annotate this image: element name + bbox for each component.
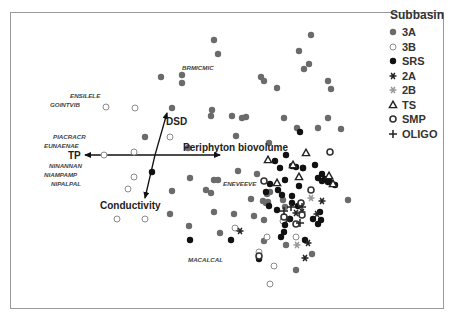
- point-3a: [260, 198, 266, 204]
- point-3a: [215, 177, 221, 183]
- marker: [389, 101, 396, 107]
- point-3a: [308, 32, 314, 38]
- point-3a: [233, 133, 239, 139]
- point-3a: [328, 86, 334, 92]
- point-3a: [158, 74, 164, 80]
- point-3b: [114, 216, 120, 222]
- species-label: NIAMPAMP: [44, 171, 78, 178]
- point-3a: [301, 66, 307, 72]
- point-smp: [298, 200, 304, 206]
- point-3a: [235, 168, 241, 174]
- legend-item-smp: SMP: [386, 112, 452, 127]
- species-label: MACALCAL: [188, 256, 223, 263]
- legend-marker-icon: [386, 26, 400, 38]
- point-3a: [208, 113, 214, 119]
- legend-label: SMP: [402, 113, 426, 125]
- point-3b: [142, 216, 148, 222]
- legend-marker-icon: [386, 113, 400, 125]
- legend-item-oligo: OLIGO: [386, 127, 452, 142]
- point-3a: [209, 107, 215, 113]
- legend-marker-icon: [386, 99, 400, 111]
- point-srs: [296, 183, 302, 189]
- legend-label: OLIGO: [402, 128, 437, 140]
- point-3a: [203, 187, 209, 193]
- legend-label: TS: [402, 99, 416, 111]
- point-3a: [187, 175, 193, 181]
- point-3a: [293, 267, 299, 273]
- point-3a: [169, 188, 175, 194]
- point-3a: [179, 80, 185, 86]
- point-srs: [315, 221, 321, 227]
- legend-title: Subbasin: [390, 8, 452, 22]
- point-3b: [101, 152, 107, 158]
- point-3a: [281, 115, 287, 121]
- point-3a: [211, 37, 217, 43]
- point-3a: [142, 134, 148, 140]
- point-srs: [266, 203, 272, 209]
- legend-marker-icon: [386, 84, 400, 96]
- marker: [390, 73, 397, 79]
- point-3b: [167, 134, 173, 140]
- legend-item-2b: 2B: [386, 83, 452, 98]
- point-smp: [327, 149, 333, 155]
- marker: [390, 44, 396, 50]
- point-srs: [319, 178, 325, 184]
- point-3a: [251, 213, 257, 219]
- point-3a: [169, 105, 175, 111]
- point-3a: [179, 72, 185, 78]
- point-3a: [186, 223, 192, 229]
- legend-label: 3B: [402, 41, 416, 53]
- legend-item-3a: 3A: [386, 25, 452, 40]
- species-label: NIPALPAL: [51, 180, 81, 187]
- point-srs: [187, 237, 193, 243]
- point-srs: [263, 189, 269, 195]
- point-3b: [264, 234, 270, 240]
- point-3b: [132, 105, 138, 111]
- point-3a: [231, 211, 237, 217]
- point-3a: [248, 196, 254, 202]
- point-3a: [261, 78, 267, 84]
- point-srs: [277, 165, 283, 171]
- point-3b: [293, 234, 299, 240]
- point-3a: [338, 126, 344, 132]
- marker: [390, 87, 397, 93]
- vector-label: DSD: [166, 116, 187, 127]
- species-label: GOINTVIB: [50, 101, 80, 108]
- legend-item-srs: SRS: [386, 54, 452, 69]
- point-smp: [308, 187, 314, 193]
- vector-label: Periphyton biovolume: [183, 142, 288, 153]
- point-3a: [315, 125, 321, 131]
- point-srs: [282, 177, 288, 183]
- point-3a: [211, 209, 217, 215]
- point-3a: [274, 85, 280, 91]
- point-srs: [275, 187, 281, 193]
- marker: [390, 58, 396, 64]
- legend-item-ts: TS: [386, 98, 452, 113]
- point-3b: [267, 281, 273, 287]
- legend-marker-icon: [386, 128, 400, 140]
- species-label: NINANNAN: [49, 162, 83, 169]
- species-label: PIACRACR: [53, 133, 86, 140]
- point-srs: [279, 192, 285, 198]
- point-3b: [271, 263, 277, 269]
- point-3a: [309, 251, 315, 257]
- legend-label: SRS: [402, 55, 425, 67]
- point-3b: [131, 149, 137, 155]
- point-srs: [149, 169, 155, 175]
- point-3b: [125, 186, 131, 192]
- vector-label: TP: [68, 150, 81, 161]
- point-smp: [299, 212, 305, 218]
- point-smp: [256, 253, 262, 259]
- legend-item-3b: 3B: [386, 40, 452, 55]
- point-srs: [228, 237, 234, 243]
- vector-label: Conductivity: [100, 200, 161, 211]
- species-label: EUNAENAE: [44, 142, 80, 149]
- marker: [390, 116, 396, 122]
- legend: Subbasin 3A3BSRS2A2BTSSMPOLIGO: [386, 8, 452, 141]
- point-srs: [278, 234, 284, 240]
- point-3a: [325, 115, 331, 121]
- legend-label: 2B: [402, 84, 416, 96]
- legend-marker-icon: [386, 55, 400, 67]
- point-srs: [289, 200, 295, 206]
- legend-marker-icon: [386, 41, 400, 53]
